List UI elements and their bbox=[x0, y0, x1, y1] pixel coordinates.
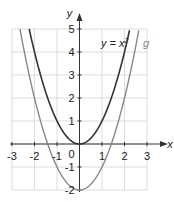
labels: -3-2-112354321-1-20xyy = x2g bbox=[7, 7, 173, 196]
x-tick-label: -3 bbox=[7, 150, 17, 162]
y-tick-label: -2 bbox=[65, 184, 75, 196]
x-tick-label: -1 bbox=[52, 150, 62, 162]
x-tick-label: 2 bbox=[121, 150, 127, 162]
series-label-y-equals-x-squared: y = x2 bbox=[100, 37, 129, 49]
y-axis-arrow-icon bbox=[77, 13, 83, 21]
x-tick-label: 3 bbox=[144, 150, 150, 162]
series-label-superscript: 2 bbox=[124, 37, 129, 44]
y-tick-label: 3 bbox=[68, 69, 74, 81]
x-tick-label: -2 bbox=[30, 150, 40, 162]
x-axis-label: x bbox=[166, 138, 173, 150]
y-tick-label: 5 bbox=[68, 23, 74, 35]
y-axis-label: y bbox=[66, 7, 74, 19]
origin-label: 0 bbox=[68, 148, 74, 160]
parabola-chart: -3-2-112354321-1-20xyy = x2g bbox=[0, 0, 174, 202]
y-tick-label: 1 bbox=[68, 115, 74, 127]
y-tick-label: 2 bbox=[68, 92, 74, 104]
y-tick-label: -1 bbox=[65, 161, 75, 173]
y-tick-label: 4 bbox=[68, 46, 74, 58]
series-label-g: g bbox=[143, 37, 150, 49]
x-tick-label: 1 bbox=[99, 150, 105, 162]
